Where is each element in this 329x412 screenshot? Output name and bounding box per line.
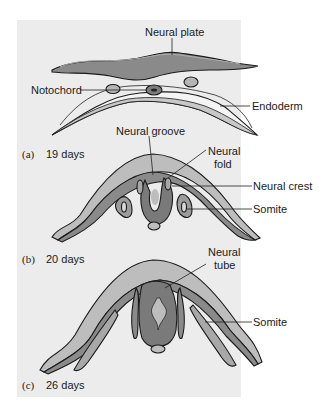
label-endoderm: Endoderm — [252, 100, 303, 112]
label-neural-tube-line1: Neural — [208, 246, 240, 258]
label-neural-plate: Neural plate — [145, 26, 204, 38]
notochord-c — [151, 345, 165, 353]
panel-a-letter: (a) — [22, 148, 35, 161]
panel-b-age: 20 days — [46, 253, 85, 265]
neural-tube-diagram: Neural plate Notochord Endoderm (a) 19 d… — [0, 0, 329, 412]
notochord-core — [151, 89, 157, 92]
neural-groove-lumen — [151, 189, 159, 205]
panel-b-letter: (b) — [22, 253, 35, 266]
neural-crest-left — [137, 180, 143, 194]
label-somite-b: Somite — [253, 203, 287, 215]
panel-a-age: 19 days — [46, 148, 85, 160]
label-neural-fold-line1: Neural — [208, 145, 240, 157]
notochord-b — [148, 222, 160, 230]
neural-crest-right — [165, 178, 171, 190]
label-neural-groove: Neural groove — [116, 125, 185, 137]
label-notochord: Notochord — [31, 84, 82, 96]
label-somite-c: Somite — [253, 316, 287, 328]
somite-blob-right — [184, 77, 198, 87]
notochord-left-blob — [106, 85, 120, 94]
panel-c-letter: (c) — [22, 379, 35, 392]
label-neural-tube-line2: tube — [214, 259, 235, 271]
label-neural-fold-line2: fold — [214, 158, 232, 170]
somite-right-b-core — [182, 202, 187, 212]
somite-left-b-core — [122, 202, 127, 212]
panel-c-age: 26 days — [46, 379, 85, 391]
label-neural-crest: Neural crest — [253, 180, 312, 192]
